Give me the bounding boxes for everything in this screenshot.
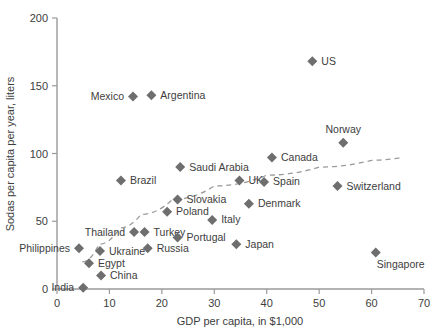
- x-tick-label: 50: [313, 297, 325, 309]
- data-points-layer: USMexicoArgentinaNorwayCanadaSaudi Arabi…: [19, 55, 425, 293]
- x-tick-label: 70: [418, 297, 430, 309]
- data-point-label: Saudi Arabia: [189, 161, 249, 173]
- data-point: Brazil: [116, 174, 156, 186]
- data-point-label: Thailand: [85, 226, 125, 238]
- data-point-marker: [78, 283, 88, 293]
- chart-canvas: 050100150200 010203040506070 USMexicoArg…: [0, 0, 445, 331]
- data-point-marker: [140, 227, 150, 237]
- data-point: India: [51, 281, 88, 293]
- data-point: Saudi Arabia: [175, 161, 249, 173]
- data-point-marker: [267, 153, 277, 163]
- data-point-label: Italy: [221, 213, 241, 225]
- data-point-marker: [128, 92, 138, 102]
- data-point-label: Portugal: [187, 231, 226, 243]
- data-point: Poland: [162, 205, 209, 217]
- data-point-marker: [338, 138, 348, 148]
- data-point: Denmark: [244, 197, 301, 209]
- data-point-label: US: [321, 55, 336, 67]
- data-point-marker: [175, 162, 185, 172]
- x-tick-label: 20: [156, 297, 168, 309]
- x-tick-label: 30: [208, 297, 220, 309]
- data-point-label: Denmark: [258, 197, 301, 209]
- x-tick-label: 60: [365, 297, 377, 309]
- y-tick-label: 200: [30, 12, 48, 24]
- data-point: Switzerland: [332, 180, 400, 192]
- data-point: Canada: [267, 151, 318, 163]
- data-point-label: Canada: [281, 151, 318, 163]
- x-tick-label: 40: [261, 297, 273, 309]
- x-tick-label: 10: [103, 297, 115, 309]
- data-point-marker: [116, 176, 126, 186]
- data-point: Slovakia: [173, 193, 227, 205]
- data-point-marker: [95, 246, 105, 256]
- data-point: Mexico: [91, 90, 138, 102]
- data-point: Ukraine: [95, 245, 145, 257]
- data-point-label: Switzerland: [346, 180, 400, 192]
- data-point-marker: [371, 247, 381, 257]
- data-point: UK: [234, 174, 263, 186]
- data-point-label: Japan: [245, 238, 274, 250]
- data-point-marker: [96, 270, 106, 280]
- data-point-marker: [74, 243, 84, 253]
- data-point-label: UK: [248, 174, 263, 186]
- y-tick-label: 150: [30, 80, 48, 92]
- data-point-label: Brazil: [130, 174, 156, 186]
- data-point: Thailand: [85, 226, 139, 238]
- data-point-label: China: [110, 269, 138, 281]
- x-tick-label: 0: [54, 297, 60, 309]
- scatter-chart: 050100150200 010203040506070 USMexicoArg…: [0, 0, 445, 331]
- data-point: China: [96, 269, 138, 281]
- y-tick-label: 0: [42, 283, 48, 295]
- data-point: Argentina: [146, 89, 205, 101]
- y-tick-label: 50: [36, 215, 48, 227]
- data-point-marker: [332, 181, 342, 191]
- data-point: Philippines: [19, 242, 84, 254]
- y-axis-title: Sodas per capita per year, liters: [4, 76, 16, 231]
- data-point-label: Egypt: [98, 257, 125, 269]
- data-point-marker: [162, 207, 172, 217]
- data-point-marker: [173, 195, 183, 205]
- data-point-label: Singapore: [377, 258, 425, 270]
- data-point-label: Slovakia: [187, 193, 227, 205]
- data-point-label: Spain: [273, 175, 300, 187]
- x-axis-title: GDP per capita, in $1,000: [177, 315, 303, 327]
- data-point: Italy: [207, 213, 241, 225]
- data-point: Norway: [325, 123, 361, 148]
- data-point-label: Poland: [176, 205, 209, 217]
- data-point-label: Philippines: [19, 242, 70, 254]
- data-point-label: Ukraine: [109, 245, 145, 257]
- data-point-marker: [231, 239, 241, 249]
- data-point-label: Mexico: [91, 90, 124, 102]
- data-point-label: Argentina: [160, 89, 205, 101]
- data-point: Egypt: [84, 257, 125, 269]
- data-point: Singapore: [371, 247, 425, 270]
- data-point-marker: [244, 199, 254, 209]
- data-point-marker: [146, 90, 156, 100]
- data-point-label: India: [51, 281, 74, 293]
- data-point: US: [307, 55, 336, 67]
- x-axis-ticks: 010203040506070: [54, 289, 430, 309]
- data-point-marker: [307, 56, 317, 66]
- y-tick-label: 100: [30, 148, 48, 160]
- data-point-label: Norway: [325, 123, 361, 135]
- data-point: Japan: [231, 238, 274, 250]
- data-point-label: Turkey: [154, 226, 186, 238]
- data-point-marker: [129, 227, 139, 237]
- data-point-label: Russia: [157, 242, 189, 254]
- data-point-marker: [84, 258, 94, 268]
- data-point: Russia: [143, 242, 189, 254]
- data-point: Spain: [259, 175, 300, 187]
